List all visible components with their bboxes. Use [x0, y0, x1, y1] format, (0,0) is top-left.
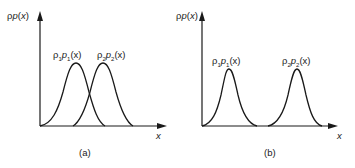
y-axis-label: ρp(x) — [176, 11, 198, 21]
curve-rho2-p2 — [268, 69, 322, 126]
curve-label-rho2-p2: ρ2p2(x) — [282, 56, 310, 68]
curve-label-rho1-p1: ρ1p1(x) — [212, 56, 240, 68]
panel-b-plot — [0, 0, 355, 168]
x-axis-arrow-icon — [328, 123, 338, 129]
curve-rho1-p1 — [202, 69, 257, 126]
y-axis-arrow-icon — [199, 11, 205, 21]
x-axis-label: x — [337, 131, 342, 141]
caption-b: (b) — [264, 147, 276, 158]
